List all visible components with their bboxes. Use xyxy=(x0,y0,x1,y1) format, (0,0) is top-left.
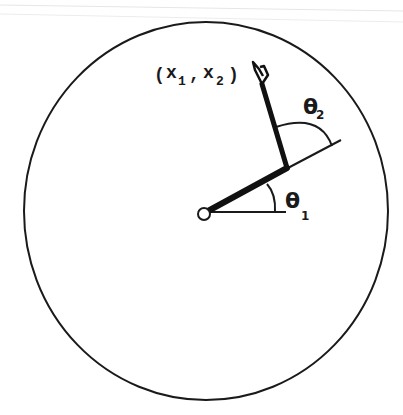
theta1-arc xyxy=(267,184,275,212)
x2-symbol: x xyxy=(203,63,214,83)
paren-close: ) xyxy=(228,65,239,85)
x1-symbol: x xyxy=(166,63,177,83)
theta1-subscript: 1 xyxy=(301,209,309,223)
paren-open: ( xyxy=(154,65,165,85)
scan-line-1 xyxy=(0,5,403,11)
theta1-symbol: θ xyxy=(285,188,300,213)
comma: , xyxy=(189,65,200,85)
link1-extension-line xyxy=(286,140,341,169)
theta1-label: θ 1 xyxy=(285,188,309,223)
theta2-arc xyxy=(276,123,332,146)
gripper-icon xyxy=(253,62,268,84)
end-effector-label: ( x 1 , x 2 ) xyxy=(154,63,239,89)
scan-line-2 xyxy=(0,14,403,22)
robot-arm-diagram: ( x 1 , x 2 ) θ 1 θ 2 xyxy=(0,0,403,415)
link2-forearm xyxy=(262,84,287,168)
base-pivot-joint xyxy=(198,208,210,220)
theta2-subscript: 2 xyxy=(316,108,324,122)
theta2-label: θ 2 xyxy=(303,94,324,122)
x1-subscript: 1 xyxy=(178,74,186,89)
x2-subscript: 2 xyxy=(216,74,224,89)
